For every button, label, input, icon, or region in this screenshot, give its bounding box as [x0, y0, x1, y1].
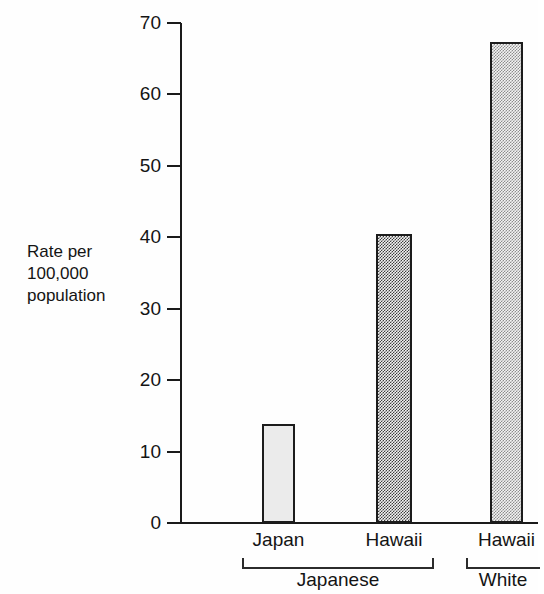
y-axis-tick: [167, 308, 181, 310]
y-axis-tick: [167, 22, 181, 24]
y-axis-tick: [167, 451, 181, 453]
y-axis-tick-label: 0: [113, 513, 161, 532]
y-axis-tick-label: 20: [113, 370, 161, 389]
y-axis-tick: [167, 379, 181, 381]
category-label-2: Hawaii: [447, 530, 544, 550]
y-axis-tick-label: 40: [113, 227, 161, 246]
bar-hawaii-1: [376, 234, 412, 523]
y-axis-tick: [167, 522, 181, 524]
x-axis-line: [170, 522, 538, 524]
y-axis-tick-label: 30: [113, 299, 161, 318]
group-bracket-white: [466, 558, 540, 569]
group-label-japanese: Japanese: [258, 569, 418, 591]
y-axis-tick: [167, 165, 181, 167]
y-axis-line: [180, 23, 182, 524]
bar-hawaii-2: [490, 42, 523, 523]
y-axis-tick-label: 60: [113, 84, 161, 103]
y-axis-tick: [167, 93, 181, 95]
group-label-white: White: [423, 569, 544, 591]
bar-japan-0: [262, 424, 295, 523]
y-axis-tick-label: 70: [113, 13, 161, 32]
category-label-0: Japan: [219, 530, 339, 550]
y-axis-tick: [167, 236, 181, 238]
y-axis-tick-label: 10: [113, 442, 161, 461]
category-label-1: Hawaii: [334, 530, 454, 550]
y-axis-tick-label: 50: [113, 156, 161, 175]
group-bracket-japanese: [242, 558, 434, 569]
